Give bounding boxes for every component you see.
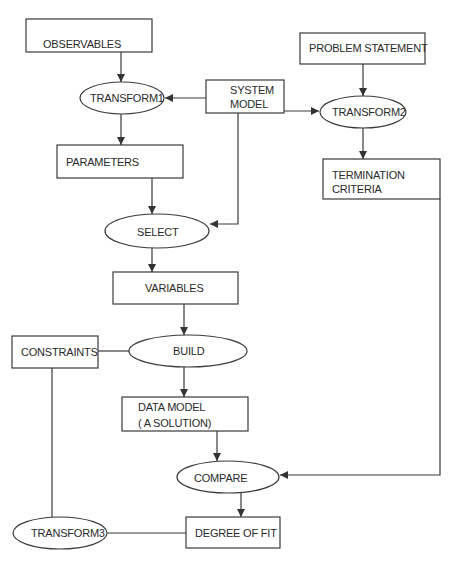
flowchart-canvas: OBSERVABLES TRANSFORM1 SYSTEM MODEL PROB… <box>0 0 453 562</box>
degree-of-fit-label: DEGREE OF FIT <box>195 527 277 540</box>
constraints-label: CONSTRAINTS <box>21 346 98 359</box>
select-label: SELECT <box>137 226 179 239</box>
transform1-label: TRANSFORM1 <box>90 92 164 105</box>
system-model-label-line1: SYSTEM <box>230 84 274 97</box>
problem-statement-label: PROBLEM STATEMENT <box>309 42 427 55</box>
edge-termination-compare <box>280 199 440 475</box>
parameters-label: PARAMETERS <box>66 156 139 169</box>
build-label: BUILD <box>173 345 204 358</box>
transform3-label: TRANSFORM3 <box>31 527 105 540</box>
variables-label: VARIABLES <box>145 282 204 295</box>
compare-label: COMPARE <box>194 472 247 485</box>
observables-label: OBSERVABLES <box>43 38 121 51</box>
edge-systemmodel-select <box>210 113 238 224</box>
system-model-label-line2: MODEL <box>230 98 268 111</box>
data-model-label-line1: DATA MODEL <box>138 401 205 414</box>
transform2-label: TRANSFORM2 <box>332 106 406 119</box>
data-model-label-line2: ( A SOLUTION) <box>138 417 211 430</box>
termination-criteria-label-line1: TERMINATION <box>332 169 405 182</box>
termination-criteria-label-line2: CRITERIA <box>332 183 382 196</box>
